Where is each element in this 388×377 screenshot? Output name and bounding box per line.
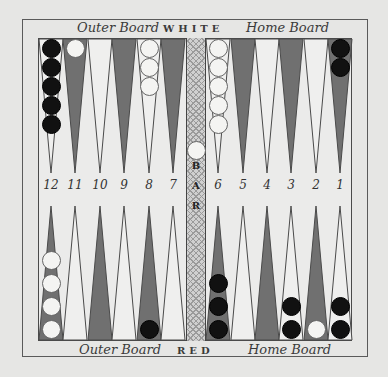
white-checker-top-6[interactable] (209, 58, 228, 77)
black-checker-bottom-6[interactable] (209, 297, 228, 316)
point-number-10: 10 (88, 178, 112, 192)
point-number-3: 3 (279, 178, 303, 192)
bar-letter-r: R (186, 200, 206, 211)
black-checker-top-12[interactable] (42, 77, 61, 96)
point-number-12: 12 (39, 178, 63, 192)
white-checker-top-8[interactable] (140, 58, 159, 77)
bar-letter-b: B (186, 160, 206, 171)
point-top-5[interactable] (231, 39, 255, 173)
white-checker-top-11[interactable] (66, 39, 85, 58)
point-top-4[interactable] (255, 39, 279, 173)
point-number-11: 11 (63, 178, 87, 192)
white-checker-top-8[interactable] (140, 39, 159, 58)
point-bottom-4[interactable] (255, 206, 279, 340)
white-checker-top-6[interactable] (209, 115, 228, 134)
point-top-3[interactable] (279, 39, 303, 173)
point-bottom-9[interactable] (112, 206, 136, 340)
point-number-7: 7 (161, 178, 185, 192)
white-checker-top-6[interactable] (209, 77, 228, 96)
white-checker-bottom-2[interactable] (307, 320, 326, 339)
black-checker-bottom-6[interactable] (209, 274, 228, 293)
point-top-10[interactable] (88, 39, 112, 173)
black-checker-bottom-8[interactable] (140, 320, 159, 339)
white-checker-top-6[interactable] (209, 39, 228, 58)
point-top-2[interactable] (304, 39, 328, 173)
point-number-1: 1 (328, 178, 352, 192)
white-checker-bottom-12[interactable] (42, 320, 61, 339)
black-checker-top-12[interactable] (42, 39, 61, 58)
black-checker-top-12[interactable] (42, 96, 61, 115)
black-checker-bottom-3[interactable] (282, 320, 301, 339)
point-bottom-10[interactable] (88, 206, 112, 340)
white-checker-top-8[interactable] (140, 77, 159, 96)
point-top-9[interactable] (112, 39, 136, 173)
point-number-4: 4 (255, 178, 279, 192)
black-checker-top-12[interactable] (42, 58, 61, 77)
black-checker-bottom-6[interactable] (209, 320, 228, 339)
point-number-5: 5 (231, 178, 255, 192)
white-checker-top-6[interactable] (209, 96, 228, 115)
bar-letter-a: A (186, 180, 206, 191)
white-checker-bottom-12[interactable] (42, 274, 61, 293)
point-number-2: 2 (304, 178, 328, 192)
point-top-7[interactable] (161, 39, 185, 173)
point-top-11[interactable] (63, 39, 87, 173)
white-checker-on-bar[interactable] (187, 141, 206, 160)
bottom-home-board-label: Home Board (248, 342, 331, 357)
black-checker-top-1[interactable] (331, 39, 350, 58)
black-checker-top-12[interactable] (42, 115, 61, 134)
bottom-player-label-red: RED (177, 345, 214, 356)
black-checker-bottom-1[interactable] (331, 320, 350, 339)
bottom-outer-board-label: Outer Board (79, 342, 161, 357)
black-checker-bottom-1[interactable] (331, 297, 350, 316)
point-number-8: 8 (137, 178, 161, 192)
point-number-9: 9 (112, 178, 136, 192)
point-bottom-7[interactable] (161, 206, 185, 340)
point-bottom-11[interactable] (63, 206, 87, 340)
point-bottom-5[interactable] (231, 206, 255, 340)
point-number-6: 6 (206, 178, 230, 192)
black-checker-top-1[interactable] (331, 58, 350, 77)
white-checker-bottom-12[interactable] (42, 251, 61, 270)
white-checker-bottom-12[interactable] (42, 297, 61, 316)
black-checker-bottom-3[interactable] (282, 297, 301, 316)
